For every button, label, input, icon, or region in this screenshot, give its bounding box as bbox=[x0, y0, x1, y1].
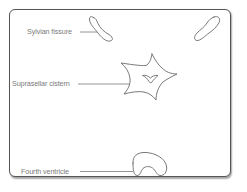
fourth-ventricle-shape bbox=[133, 152, 167, 175]
label-fourth-ventricle: Fourth ventricle bbox=[21, 168, 69, 175]
label-sylvian-fissure: Sylvian fissure bbox=[27, 28, 72, 35]
sylvian-fissure-left-shape bbox=[89, 17, 112, 42]
label-suprasellar-cistern: Suprasellar cistern bbox=[12, 80, 70, 87]
suprasellar-inner-shape bbox=[143, 75, 158, 83]
sylvian-fissure-right-shape bbox=[195, 17, 220, 41]
